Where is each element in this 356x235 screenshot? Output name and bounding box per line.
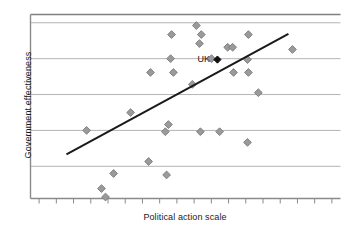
uk-annotation-label: UK: [197, 54, 210, 64]
data-point-marker: [168, 31, 176, 39]
data-point-marker: [145, 158, 153, 166]
data-point-marker: [147, 69, 155, 77]
x-axis-title: Political action scale: [30, 212, 340, 222]
data-point-marker: [289, 46, 297, 54]
scatter-chart: Government effectiveness Political actio…: [0, 0, 356, 235]
data-point-marker: [229, 43, 237, 51]
data-point-marker: [83, 127, 91, 135]
y-axis-title: Government effectiveness: [23, 20, 33, 190]
data-point-marker: [196, 40, 204, 48]
data-point-marker: [244, 138, 252, 146]
data-point-marker: [110, 170, 118, 178]
data-point-marker: [245, 31, 253, 39]
data-point-marker: [165, 121, 173, 129]
data-point-marker: [170, 69, 178, 77]
data-point-marker: [216, 128, 224, 136]
data-point-marker: [230, 69, 238, 77]
plot-canvas: [0, 0, 356, 235]
uk-data-point-marker: [214, 56, 221, 63]
data-point-marker: [127, 109, 135, 117]
data-point-marker: [245, 69, 253, 77]
data-point-marker: [161, 128, 169, 136]
data-point-marker: [98, 185, 106, 193]
data-point-marker: [196, 128, 204, 136]
data-point-marker: [167, 55, 175, 63]
data-point-marker: [254, 89, 262, 97]
data-point-marker: [197, 31, 205, 39]
data-point-marker: [163, 171, 171, 179]
